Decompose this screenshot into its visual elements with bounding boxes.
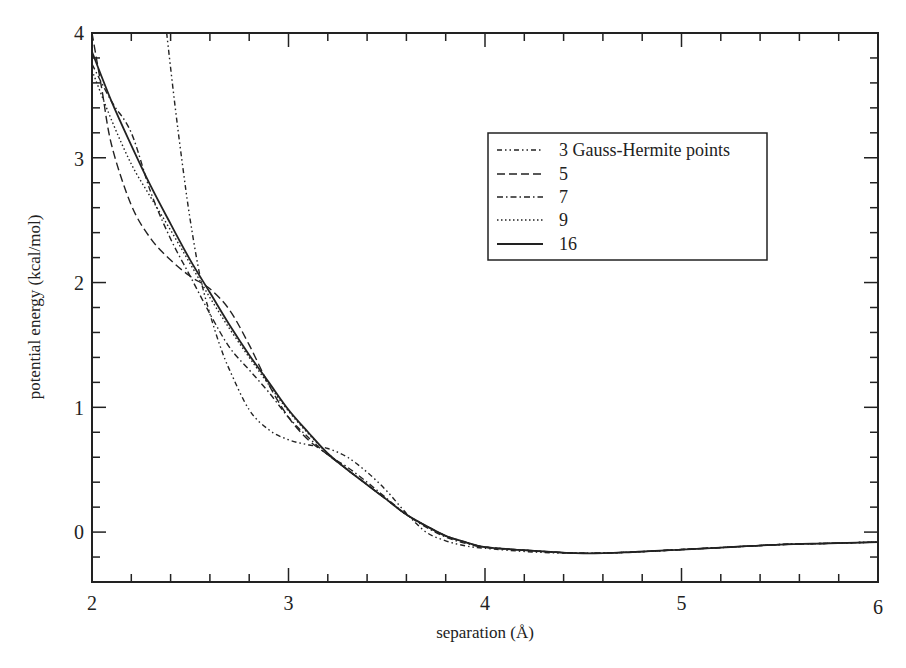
legend-label-9-points: 9 (559, 210, 568, 230)
x-tick-label: 2 (87, 592, 97, 614)
legend-label-7-points: 7 (559, 187, 568, 207)
legend-label-16-points: 16 (559, 234, 577, 254)
y-tick-label: 2 (74, 272, 84, 294)
x-axis-label: separation (Å) (436, 623, 534, 642)
x-tick-label: 6 (873, 596, 883, 618)
x-tick-label: 5 (677, 592, 687, 614)
y-tick-label: 4 (74, 22, 84, 44)
x-tick-label: 3 (284, 592, 294, 614)
x-tick-label: 4 (480, 592, 490, 614)
y-tick-label: 1 (74, 397, 84, 419)
legend-label-5-points: 5 (559, 164, 568, 184)
x-tick-labels: 2 3 4 5 6 (87, 592, 883, 618)
y-tick-labels: 0 1 2 3 4 (74, 22, 84, 543)
y-tick-label: 0 (74, 521, 84, 543)
y-tick-label: 3 (74, 148, 84, 170)
plot-series (92, 33, 878, 553)
potential-energy-chart: 2 3 4 5 6 0 1 2 3 4 separation (Å) poten… (0, 0, 906, 668)
y-axis-label: potential energy (kcal/mol) (25, 215, 44, 400)
plot-frame (92, 33, 878, 582)
series-line-3-points (167, 33, 878, 553)
series-line-16-points (92, 52, 878, 554)
axis-ticks (92, 33, 878, 582)
legend-label-3-points: 3 Gauss-Hermite points (559, 140, 730, 160)
legend: 3 Gauss-Hermite points 5 7 9 16 (488, 133, 767, 260)
